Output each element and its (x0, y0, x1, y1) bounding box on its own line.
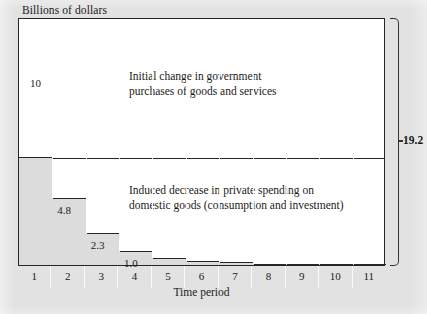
step-bar-period-11 (353, 264, 386, 265)
induced-decrease-steps: Induced decrease in private spending on … (19, 159, 384, 265)
initial-change-caption-line1: Initial change in government (129, 69, 277, 84)
total-bracket (390, 18, 399, 266)
initial-change-block: 10 Initial change in government purchase… (19, 19, 384, 159)
induced-decrease-caption: Induced decrease in private spending on … (129, 183, 344, 213)
y-axis-caption: Billions of dollars (22, 4, 107, 16)
grid-column-line (286, 19, 287, 265)
step-bar-period-8 (253, 264, 286, 265)
step-bar-period-1 (19, 157, 52, 265)
grid-column-line (86, 19, 87, 265)
grid-column-line (186, 19, 187, 265)
period-axis: 1234567891011 (18, 266, 385, 288)
period-tick-4: 4 (117, 266, 150, 288)
initial-change-value: 10 (30, 77, 41, 89)
period-tick-1: 1 (18, 266, 50, 288)
period-tick-8: 8 (251, 266, 284, 288)
total-value: 19.2 (403, 134, 423, 146)
figure-canvas: Billions of dollars 10 Initial change in… (0, 0, 427, 314)
induced-decrease-caption-line1: Induced decrease in private spending on (129, 183, 344, 198)
period-tick-2: 2 (50, 266, 83, 288)
period-tick-5: 5 (151, 266, 184, 288)
period-tick-6: 6 (184, 266, 217, 288)
step-value-period-3: 2.3 (91, 239, 105, 251)
plot-frame: 10 Initial change in government purchase… (18, 18, 385, 266)
grid-column-line (119, 19, 120, 265)
grid-column-line (319, 19, 320, 265)
grid-column-line (353, 19, 354, 265)
grid-column-line (152, 19, 153, 265)
period-tick-7: 7 (218, 266, 251, 288)
initial-change-caption-line2: purchases of goods and services (129, 84, 277, 99)
step-bar-period-9 (286, 264, 319, 265)
period-tick-3: 3 (84, 266, 117, 288)
step-value-period-2: 4.8 (57, 204, 71, 216)
step-bar-period-5 (152, 258, 185, 265)
grid-column-line (219, 19, 220, 265)
initial-change-caption: Initial change in government purchases o… (129, 69, 277, 99)
step-bar-period-7 (219, 262, 252, 265)
step-bar-period-6 (186, 261, 219, 265)
period-tick-9: 9 (285, 266, 318, 288)
induced-decrease-caption-line2: domestic goods (consumption and investme… (129, 198, 344, 213)
step-bar-period-10 (319, 264, 352, 265)
period-tick-11: 11 (352, 266, 385, 288)
period-tick-10: 10 (318, 266, 351, 288)
grid-column-line (253, 19, 254, 265)
x-axis-label: Time period (18, 286, 385, 298)
grid-column-line (52, 19, 53, 265)
